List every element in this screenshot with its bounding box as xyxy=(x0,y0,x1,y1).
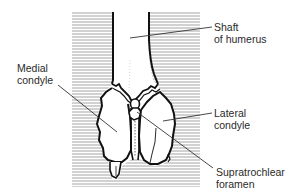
label-supratrochlear-line1: Supratrochlear xyxy=(216,166,285,178)
label-supratrochlear-line2: foramen xyxy=(216,178,285,190)
label-shaft-line2: of humerus xyxy=(214,33,267,45)
shaft-left-edge xyxy=(112,12,113,84)
label-lateral-line1: Lateral xyxy=(214,107,250,119)
label-medial-condyle: Medial condyle xyxy=(17,62,53,86)
label-supratrochlear-foramen: Supratrochlear foramen xyxy=(216,166,285,190)
label-medial-line1: Medial xyxy=(17,62,53,74)
label-lateral-condyle: Lateral condyle xyxy=(214,107,250,131)
label-medial-line2: condyle xyxy=(17,74,53,86)
label-shaft-of-humerus: Shaft of humerus xyxy=(214,21,267,45)
humerus-diagram: Shaft of humerus Medial condyle Lateral … xyxy=(0,0,297,196)
label-lateral-line2: condyle xyxy=(214,119,250,131)
label-shaft-line1: Shaft xyxy=(214,21,267,33)
